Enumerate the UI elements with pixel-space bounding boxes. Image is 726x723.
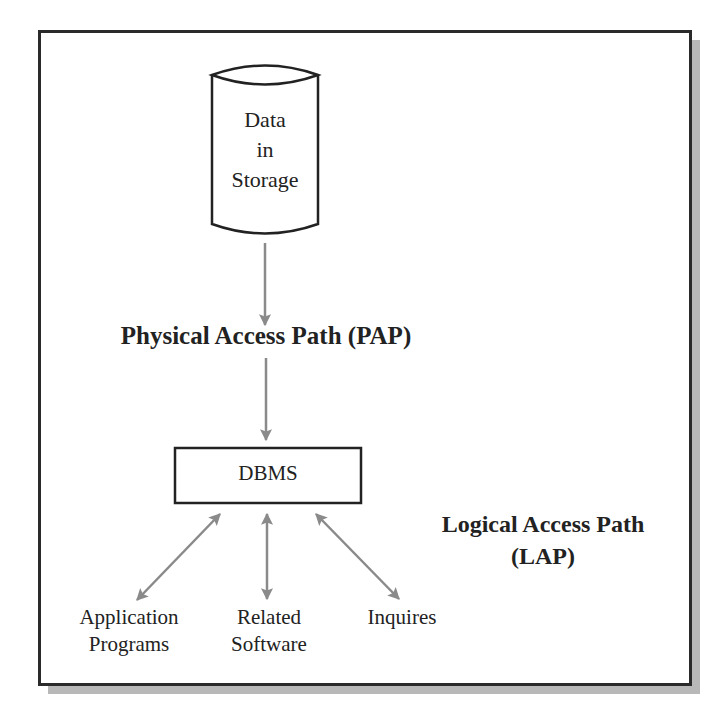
client-label-line: Inquires: [347, 604, 457, 631]
client-related-software: Related Software: [204, 604, 334, 658]
client-application-programs: Application Programs: [59, 604, 199, 658]
arrow-dbms-application-programs: [137, 514, 220, 600]
arrow-dbms-inquires: [316, 514, 399, 599]
client-label-line: Programs: [59, 631, 199, 658]
client-inquires: Inquires: [347, 604, 457, 631]
client-label-line: Related: [204, 604, 334, 631]
storage-label-line: Storage: [212, 165, 318, 195]
storage-label-line: Data: [212, 105, 318, 135]
logical-access-path-label: Logical Access Path (LAP): [413, 508, 673, 572]
lap-label-line: Logical Access Path: [413, 508, 673, 540]
storage-label: Data in Storage: [212, 105, 318, 195]
client-label-line: Software: [204, 631, 334, 658]
physical-access-path-label: Physical Access Path (PAP): [96, 322, 436, 350]
storage-label-line: in: [212, 135, 318, 165]
client-label-line: Application: [59, 604, 199, 631]
dbms-label: DBMS: [174, 462, 362, 485]
lap-label-line: (LAP): [413, 540, 673, 572]
